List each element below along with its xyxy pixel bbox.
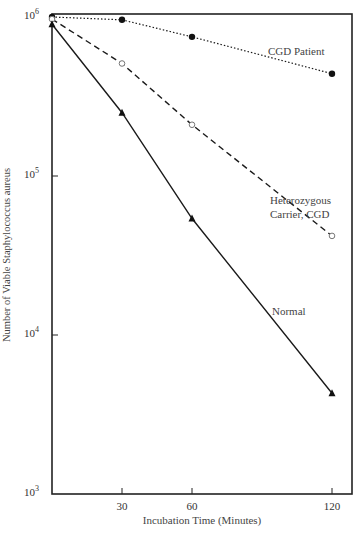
data-point-marker (189, 34, 195, 40)
data-point-marker (329, 70, 335, 76)
data-point-marker (189, 122, 195, 128)
y-tick-label: 105 (24, 166, 39, 180)
legend-normal: Normal (272, 305, 306, 317)
legend-cgd-patient: CGD Patient (268, 45, 325, 57)
legend-heterozygous-line2: Carrier, CGD (270, 208, 329, 220)
x-axis-ticks (122, 488, 332, 494)
y-axis-label: Number of Viable Staphylococcus aureus (1, 168, 12, 342)
x-axis-label: Incubation Time (Minutes) (143, 514, 262, 526)
y-tick-label: 106 (24, 7, 39, 21)
chart-canvas (0, 0, 359, 537)
data-point-marker (329, 233, 335, 239)
x-tick-label: 60 (187, 500, 198, 512)
y-axis-ticks (52, 176, 58, 335)
data-point-marker (119, 17, 125, 23)
y-tick-label: 103 (24, 484, 39, 498)
plot-frame (52, 14, 352, 494)
x-tick-label: 120 (324, 500, 341, 512)
legend-heterozygous-line1: Heterozygous (270, 194, 331, 206)
x-tick-label: 30 (117, 500, 128, 512)
y-tick-label: 104 (24, 325, 39, 339)
data-point-marker (119, 61, 125, 67)
